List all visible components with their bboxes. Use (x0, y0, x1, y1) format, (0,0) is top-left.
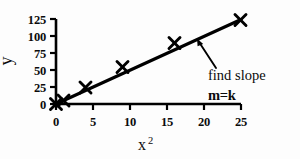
y-axis-label: y (0, 57, 15, 66)
x-axis-label-base: x (138, 136, 146, 153)
x-tick-label: 15 (152, 116, 182, 129)
y-tick-label: 0 (4, 99, 46, 112)
y-tick-label: 100 (4, 31, 46, 44)
y-tick-label: 125 (4, 14, 46, 27)
annotation-arrow (197, 39, 216, 69)
x-tick-label: 10 (115, 116, 145, 129)
data-point-marker (117, 62, 128, 73)
y-tick-label: 50 (4, 65, 46, 78)
figure-canvas: 125 100 75 50 25 0 0 5 10 15 20 25 y x2 … (0, 0, 300, 159)
x-tick-label: 25 (226, 116, 256, 129)
x-axis-label-exponent: 2 (148, 135, 153, 146)
data-point-marker (169, 38, 180, 49)
annotation-slope-formula: m=k (208, 88, 236, 103)
x-axis-label: x2 (138, 136, 153, 153)
y-tick-label: 25 (4, 82, 46, 95)
x-tick-label: 20 (189, 116, 219, 129)
x-tick-label: 5 (78, 116, 108, 129)
annotation-find-slope: find slope (208, 68, 266, 83)
x-tick-label: 0 (41, 116, 71, 129)
